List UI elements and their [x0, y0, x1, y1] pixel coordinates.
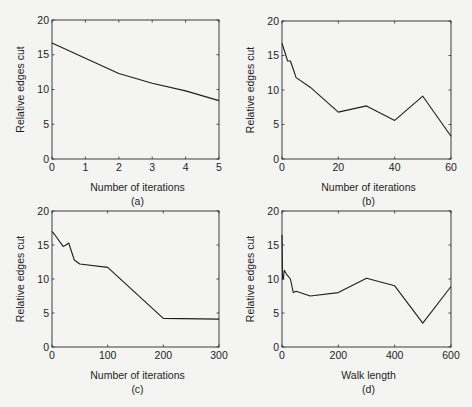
- panel-caption: (a): [131, 195, 144, 207]
- y-tick-label: 0: [273, 341, 279, 353]
- data-line: [282, 43, 451, 136]
- y-tick-label: 10: [267, 84, 279, 96]
- x-tick-label: 20: [332, 161, 344, 173]
- x-tick-label: 5: [216, 161, 222, 173]
- y-axis-label: Relative edges cut: [14, 46, 26, 132]
- subplot-b: 020406005101520Number of iterationsRelat…: [244, 15, 457, 208]
- y-tick-label: 10: [37, 83, 49, 95]
- x-axis-label: Number of iterations: [90, 181, 185, 193]
- y-tick-label: 0: [43, 153, 49, 165]
- y-tick-label: 5: [43, 307, 49, 319]
- data-line: [52, 231, 219, 319]
- panel-caption: (b): [362, 195, 375, 207]
- x-tick-label: 3: [149, 161, 155, 173]
- data-line: [52, 43, 219, 101]
- y-tick-label: 0: [43, 341, 49, 353]
- y-tick-label: 15: [37, 48, 49, 60]
- x-tick-label: 100: [99, 349, 117, 361]
- chart-canvas: 01234505101520Number of iterationsRelati…: [0, 0, 472, 407]
- x-axis-label: Walk length: [341, 369, 396, 381]
- axes-frame: [282, 21, 451, 159]
- x-tick-label: 400: [386, 349, 404, 361]
- y-tick-label: 20: [37, 14, 49, 26]
- x-tick-label: 300: [210, 349, 228, 361]
- subplot-d: 020040060005101520Walk lengthRelative ed…: [244, 205, 460, 396]
- data-line: [282, 235, 451, 323]
- y-tick-label: 10: [267, 273, 279, 285]
- x-tick-label: 0: [279, 349, 285, 361]
- y-tick-label: 5: [273, 307, 279, 319]
- subplot-a: 01234505101520Number of iterationsRelati…: [14, 14, 222, 208]
- x-tick-label: 600: [442, 349, 460, 361]
- x-tick-label: 40: [389, 161, 401, 173]
- y-tick-label: 20: [267, 205, 279, 217]
- y-tick-label: 0: [273, 153, 279, 165]
- y-tick-label: 10: [37, 273, 49, 285]
- subplot-c: 010020030005101520Number of iterationsRe…: [14, 205, 228, 396]
- x-tick-label: 200: [155, 349, 173, 361]
- y-tick-label: 5: [43, 118, 49, 130]
- y-tick-label: 20: [267, 15, 279, 27]
- y-tick-label: 15: [267, 49, 279, 61]
- x-tick-label: 200: [330, 349, 348, 361]
- panel-caption: (c): [131, 383, 143, 395]
- x-axis-label: Number of iterations: [90, 369, 185, 381]
- x-axis-label: Number of iterations: [321, 181, 416, 193]
- x-tick-label: 0: [279, 161, 285, 173]
- y-axis-label: Relative edges cut: [244, 236, 256, 322]
- x-tick-label: 1: [82, 161, 88, 173]
- axes-frame: [52, 20, 219, 159]
- axes-frame: [52, 211, 219, 347]
- y-tick-label: 5: [273, 118, 279, 130]
- x-tick-label: 0: [49, 161, 55, 173]
- x-tick-label: 0: [49, 349, 55, 361]
- y-axis-label: Relative edges cut: [244, 47, 256, 133]
- figure-grid: 01234505101520Number of iterationsRelati…: [0, 0, 472, 407]
- x-tick-label: 60: [445, 161, 457, 173]
- y-tick-label: 15: [37, 239, 49, 251]
- y-axis-label: Relative edges cut: [14, 236, 26, 322]
- axes-frame: [282, 211, 451, 347]
- y-tick-label: 20: [37, 205, 49, 217]
- x-tick-label: 4: [183, 161, 189, 173]
- panel-caption: (d): [362, 383, 375, 395]
- y-tick-label: 15: [267, 239, 279, 251]
- x-tick-label: 2: [116, 161, 122, 173]
